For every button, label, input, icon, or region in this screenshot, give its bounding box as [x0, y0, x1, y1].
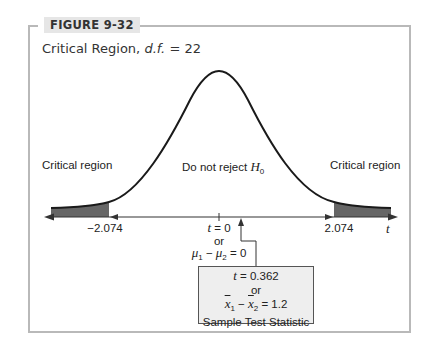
tick-label-right: 2.074	[325, 222, 354, 234]
center-label: t = 0 or μ1 − μ2 = 0	[192, 222, 247, 265]
density-curve	[51, 71, 391, 208]
axis-variable-label: t	[386, 221, 390, 237]
axis-arrow-right	[388, 214, 398, 221]
inner-arrow-right	[325, 214, 333, 220]
do-not-reject-label: Do not reject H0	[182, 159, 264, 176]
critical-region-left-label: Critical region	[42, 159, 112, 171]
inner-arrow-left	[110, 214, 118, 220]
statistic-caption: Sample Test Statistic	[199, 316, 313, 330]
tick-label-left: −2.074	[87, 222, 123, 234]
axis-arrow-left	[44, 214, 54, 221]
sample-test-statistic-box: t = 0.362 or x1 − x2 = 1.2 Sample Test S…	[198, 266, 314, 324]
critical-region-right-label: Critical region	[330, 159, 400, 171]
